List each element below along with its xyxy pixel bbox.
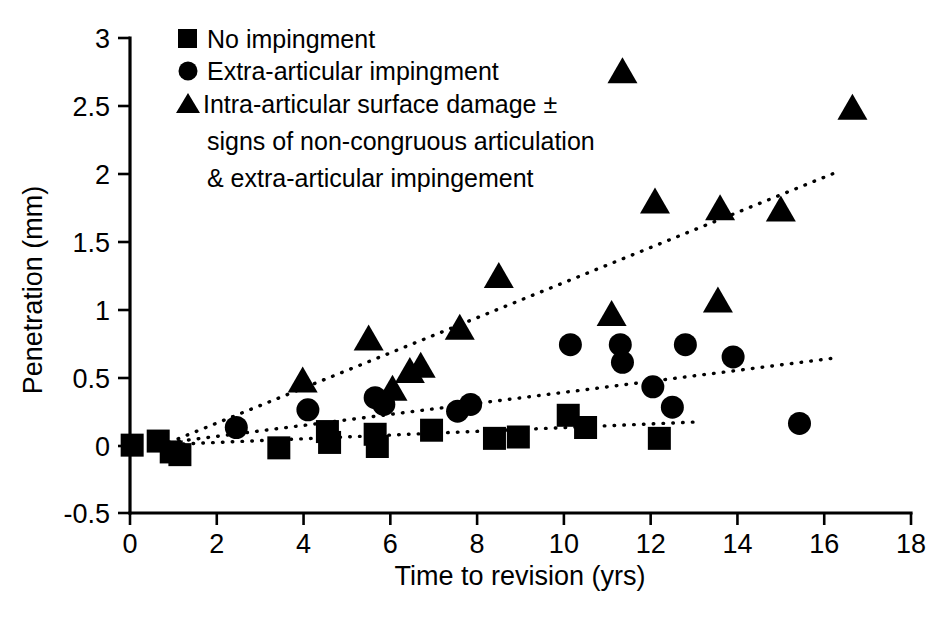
y-tick-label-0point5: 0.5	[72, 364, 110, 394]
data-point-circle-6	[559, 333, 582, 356]
data-point-triangle-13	[837, 94, 867, 120]
chart-svg: 3 2.5 2 1.5 1 0.5 0 -0.5 024681012141618…	[0, 0, 950, 623]
x-tick-label-8: 8	[470, 529, 485, 559]
y-tick-label-2point5: 2.5	[72, 92, 110, 122]
data-point-circle-5	[459, 393, 482, 416]
data-point-triangle-10	[703, 287, 733, 313]
data-point-circle-9	[641, 375, 664, 398]
x-tick-label-16: 16	[809, 529, 839, 559]
data-point-circle-10	[661, 396, 684, 419]
scatter-chart: 3 2.5 2 1.5 1 0.5 0 -0.5 024681012141618…	[0, 0, 950, 623]
data-point-circle-13	[788, 412, 811, 435]
data-point-circle-12	[722, 345, 745, 368]
legend-square-icon	[178, 29, 197, 48]
x-tick-label-0: 0	[122, 529, 137, 559]
data-point-triangle-5	[445, 314, 475, 340]
y-axis-title: Penetration (mm)	[18, 186, 48, 395]
data-point-circle-0	[225, 416, 248, 439]
y-tick-label-3: 3	[95, 24, 110, 54]
legend-circle-icon	[179, 62, 198, 81]
data-point-square-14	[648, 427, 671, 450]
data-point-circle-8	[611, 351, 634, 374]
legend-triangle-icon	[176, 93, 200, 113]
x-tick-group: 024681012141618	[122, 513, 926, 559]
data-point-square-13	[574, 416, 597, 439]
x-tick-label-18: 18	[896, 529, 926, 559]
x-axis-title: Time to revision (yrs)	[394, 561, 645, 591]
data-marker-group	[121, 57, 868, 466]
y-tick-label-0: 0	[95, 432, 110, 462]
legend: No impingment Extra-articular impingment…	[176, 25, 595, 192]
data-point-square-10	[483, 427, 506, 450]
y-tick-label-minus0point5: -0.5	[63, 499, 110, 529]
legend-label-continuation-2: & extra-articular impingement	[207, 164, 534, 192]
data-point-square-11	[507, 426, 530, 449]
y-tick-label-1: 1	[95, 296, 110, 326]
x-tick-label-4: 4	[296, 529, 311, 559]
data-point-square-6	[318, 431, 341, 454]
x-tick-label-10: 10	[549, 529, 579, 559]
legend-label-continuation-1: signs of non-congruous articulation	[207, 127, 595, 155]
data-point-triangle-11	[705, 194, 735, 220]
data-point-triangle-1	[354, 325, 384, 351]
x-tick-label-6: 6	[383, 529, 398, 559]
x-tick-label-2: 2	[209, 529, 224, 559]
legend-label-intra-articular: Intra-articular surface damage ±	[203, 90, 557, 118]
data-point-circle-11	[674, 333, 697, 356]
legend-label-no-impingment: No impingment	[207, 25, 375, 53]
data-point-triangle-6	[484, 262, 514, 288]
data-point-triangle-8	[607, 57, 637, 83]
data-point-triangle-9	[640, 187, 670, 213]
data-point-square-4	[267, 436, 290, 459]
legend-label-extra-articular: Extra-articular impingment	[207, 57, 499, 85]
data-point-circle-1	[296, 398, 319, 421]
data-point-square-0	[121, 434, 144, 457]
data-point-triangle-7	[597, 300, 627, 326]
y-tick-label-2: 2	[95, 160, 110, 190]
data-point-square-3	[168, 443, 191, 466]
data-point-square-8	[366, 435, 389, 458]
data-point-triangle-0	[288, 367, 318, 393]
x-tick-label-12: 12	[636, 529, 666, 559]
x-tick-label-14: 14	[722, 529, 752, 559]
intra-articular-trend	[169, 174, 833, 443]
data-point-square-9	[420, 419, 443, 442]
y-tick-label-1point5: 1.5	[72, 228, 110, 258]
